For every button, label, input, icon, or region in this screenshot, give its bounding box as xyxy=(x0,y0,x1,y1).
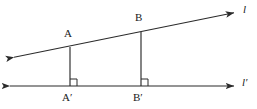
right-angle-mark-a-prime xyxy=(70,79,77,86)
point-label-b: B xyxy=(135,12,142,23)
geometry-figure: A B A′ B′ l l′ xyxy=(0,0,257,109)
right-angle-mark-b-prime xyxy=(141,79,148,86)
line-label-l-prime: l′ xyxy=(242,77,247,88)
point-label-b-prime: B′ xyxy=(133,92,143,103)
figure-canvas xyxy=(0,0,257,109)
line-label-l: l xyxy=(243,4,246,15)
point-label-a-prime: A′ xyxy=(62,92,72,103)
point-label-a: A xyxy=(64,28,72,39)
line-l xyxy=(14,13,234,57)
